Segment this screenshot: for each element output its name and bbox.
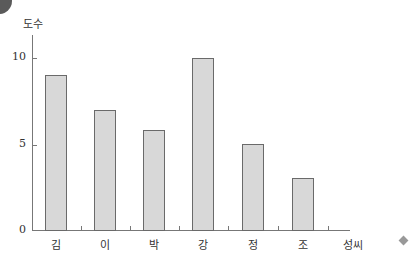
x-axis-label: 성씨 <box>333 236 373 252</box>
y-tick-label-5: 5 <box>6 137 26 150</box>
x-tick <box>228 226 229 230</box>
corner-circle-icon <box>0 0 12 14</box>
bar-5 <box>292 178 314 231</box>
x-category-label: 강 <box>183 236 223 252</box>
y-tick-label-10: 10 <box>6 50 26 63</box>
y-axis <box>32 35 33 231</box>
x-category-label: 김 <box>36 236 76 252</box>
bar-4 <box>242 144 264 231</box>
x-category-label: 정 <box>233 236 273 252</box>
bar-3 <box>192 58 214 231</box>
y-axis-label: 도수 <box>23 15 43 31</box>
y-tick-label-0: 0 <box>6 223 26 236</box>
y-tick-10 <box>32 58 37 59</box>
x-category-label: 조 <box>283 236 323 252</box>
x-category-label: 박 <box>134 236 174 252</box>
x-tick <box>328 226 329 230</box>
x-tick <box>278 226 279 230</box>
x-tick <box>81 226 82 230</box>
bar-0 <box>45 75 67 231</box>
y-tick-5 <box>32 145 37 146</box>
x-tick <box>179 226 180 230</box>
x-category-label: 이 <box>85 236 125 252</box>
diamond-marker-icon <box>399 236 409 246</box>
bar-2 <box>143 130 165 231</box>
x-tick <box>130 226 131 230</box>
bar-1 <box>94 110 116 231</box>
